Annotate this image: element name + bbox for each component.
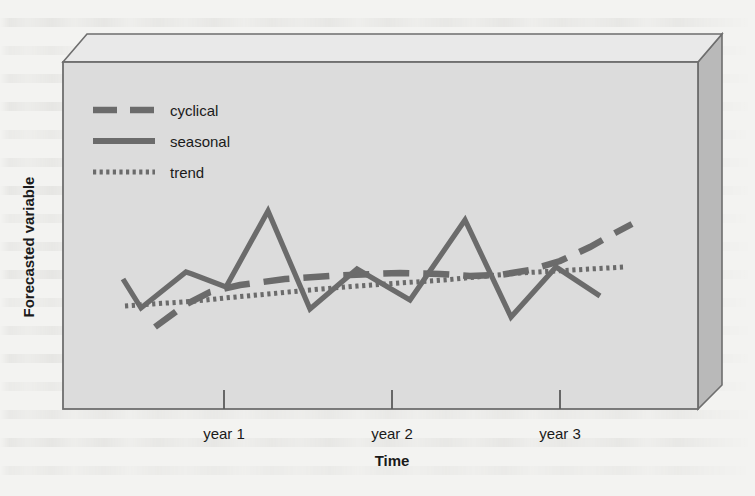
forecast-chart: year 1 year 2 year 3 Time Forecasted var… (0, 0, 755, 496)
y-axis-title: Forecasted variable (20, 177, 37, 318)
x-axis-tick-labels: year 1 year 2 year 3 (203, 425, 581, 442)
x-tick-label-2: year 3 (539, 425, 581, 442)
figure-page: year 1 year 2 year 3 Time Forecasted var… (0, 0, 755, 496)
plot-box-top-face (63, 34, 722, 62)
plot-box-right-face (698, 34, 722, 409)
x-tick-label-0: year 1 (203, 425, 245, 442)
legend-label-trend: trend (170, 164, 204, 181)
plot-area-front-face (63, 62, 698, 409)
legend-label-seasonal: seasonal (170, 133, 230, 150)
x-axis-title: Time (375, 452, 410, 469)
x-tick-label-1: year 2 (371, 425, 413, 442)
legend-label-cyclical: cyclical (170, 102, 218, 119)
plot-box-3d (63, 34, 722, 409)
